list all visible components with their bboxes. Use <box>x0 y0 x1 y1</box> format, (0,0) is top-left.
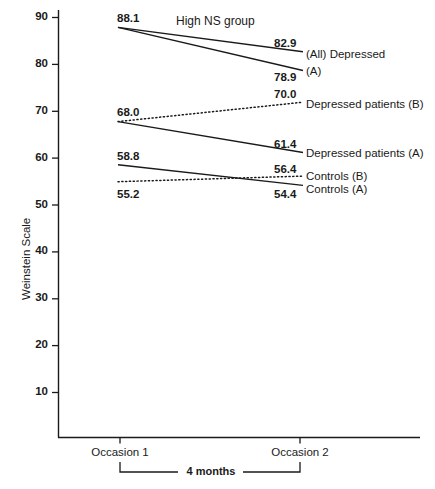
y-tick-label-60: 60 <box>16 151 48 163</box>
value-label-56-4: 56.4 <box>274 163 296 175</box>
y-tick-label-70: 70 <box>16 104 48 116</box>
value-label-58-8: 58.8 <box>117 150 139 162</box>
chart-plot-area <box>0 0 435 489</box>
series-label-depressed-patients-a: Depressed patients (A) <box>306 147 424 159</box>
y-tick-label-30: 30 <box>16 291 48 303</box>
series-depressed-patients-b <box>118 102 303 121</box>
series-label-controls-b: Controls (B) <box>306 170 367 182</box>
y-tick-label-40: 40 <box>16 244 48 256</box>
y-tick-label-10: 10 <box>16 385 48 397</box>
series-controls-b <box>118 176 303 182</box>
y-tick-label-20: 20 <box>16 338 48 350</box>
value-label-78-9: 78.9 <box>274 71 296 83</box>
value-label-82-9: 82.9 <box>274 37 296 49</box>
x-axis-ticks <box>120 438 300 444</box>
y-tick-label-90: 90 <box>16 10 48 22</box>
chart-canvas: Weinstein Scale 90 80 70 60 50 40 30 20 … <box>0 0 435 489</box>
x-axis-label-occasion-1: Occasion 1 <box>86 446 154 458</box>
y-tick-label-50: 50 <box>16 198 48 210</box>
series-label-depressed-a-top: (A) <box>306 65 321 77</box>
annotation-high-ns-group: High NS group <box>176 14 255 28</box>
value-label-68-0: 68.0 <box>117 106 139 118</box>
series-label-controls-a: Controls (A) <box>306 183 367 195</box>
value-label-55-2: 55.2 <box>117 188 139 200</box>
y-tick-label-80: 80 <box>16 57 48 69</box>
value-label-54-4: 54.4 <box>274 188 296 200</box>
value-label-61-4: 61.4 <box>274 138 296 150</box>
y-axis-ticks <box>52 18 58 393</box>
value-label-70-0: 70.0 <box>274 88 296 100</box>
value-label-88-1: 88.1 <box>117 12 139 24</box>
duration-label: 4 months <box>178 465 244 477</box>
series-label-all-depressed: (All) Depressed <box>306 48 385 60</box>
y-axis-title: Weinstein Scale <box>20 218 32 300</box>
series-label-depressed-patients-b: Depressed patients (B) <box>306 98 424 110</box>
x-axis-label-occasion-2: Occasion 2 <box>266 446 334 458</box>
axis-lines <box>58 10 420 438</box>
